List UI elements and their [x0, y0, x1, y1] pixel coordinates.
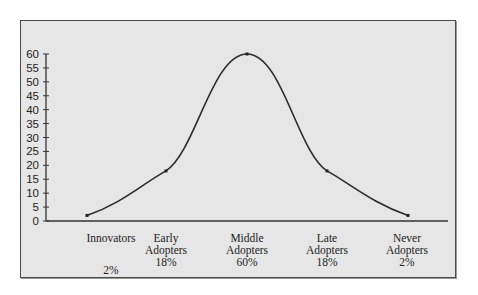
y-tick-label: 50: [26, 76, 39, 88]
data-point-marker: [246, 53, 249, 56]
data-point-marker: [407, 214, 410, 217]
y-tick-label: 15: [26, 173, 39, 185]
x-label-late-adopters: Late Adopters 18%: [287, 232, 367, 268]
y-tick-label: 30: [26, 132, 39, 144]
y-tick-label: 10: [26, 187, 39, 199]
x-label-early-adopters: Early Adopters 18%: [126, 232, 206, 268]
x-label-middle-adopters: Middle Adopters 60%: [207, 232, 287, 268]
data-point-marker: [326, 169, 329, 172]
data-point-marker: [165, 169, 168, 172]
x-label-never-adopters: Never Adopters 2%: [367, 232, 447, 268]
y-tick-label: 5: [33, 201, 39, 213]
y-tick-label: 40: [26, 104, 39, 116]
y-tick-label: 60: [26, 48, 39, 60]
y-tick-label: 45: [26, 90, 39, 102]
y-axis: 051015202530354045505560: [26, 48, 49, 227]
data-point-marker: [86, 214, 89, 217]
y-tick-label: 35: [26, 118, 39, 130]
y-tick-label: 25: [26, 145, 39, 157]
adoption-curve: [87, 54, 408, 215]
y-tick-label: 0: [33, 215, 39, 227]
y-tick-label: 20: [26, 159, 39, 171]
y-tick-label: 55: [26, 62, 39, 74]
